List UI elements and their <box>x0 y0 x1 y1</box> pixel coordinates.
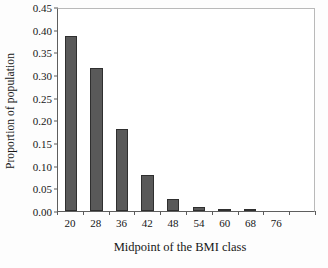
bar <box>167 199 179 211</box>
x-tick-mark <box>57 211 58 215</box>
y-tick-label: 0.45 <box>33 3 52 14</box>
x-tick-label: 60 <box>219 217 230 230</box>
bars-layer <box>58 9 314 211</box>
bar-slot <box>109 9 135 211</box>
plot-area <box>57 8 315 212</box>
y-axis-title-text: Proportion of population <box>4 53 16 169</box>
y-axis-tick-labels: 0.000.050.100.150.200.250.300.350.400.45 <box>18 8 54 212</box>
y-tick-label: 0.35 <box>33 48 52 59</box>
bar-slot <box>237 9 263 211</box>
bar-slot <box>160 9 186 211</box>
x-tick-mark <box>83 211 84 215</box>
x-tick-mark <box>212 211 213 215</box>
bar <box>141 175 153 211</box>
x-tick-mark <box>238 211 239 215</box>
bar <box>90 68 102 211</box>
x-tick-mark <box>315 211 316 215</box>
x-tick-label: 36 <box>116 217 127 230</box>
y-tick-label: 0.15 <box>33 139 52 150</box>
x-axis-tick-marks <box>57 211 315 216</box>
x-tick-mark <box>263 211 264 215</box>
x-axis-tick-labels: 202836424854606876 <box>57 217 315 233</box>
bar-slot <box>58 9 84 211</box>
x-tick-label: 54 <box>193 217 204 230</box>
x-tick-mark <box>289 211 290 215</box>
y-tick-label: 0.00 <box>33 207 52 218</box>
x-axis-title: Midpoint of the BMI class <box>40 240 320 255</box>
y-axis-title: Proportion of population <box>0 0 20 222</box>
x-tick-label: 42 <box>142 217 153 230</box>
y-tick-label: 0.40 <box>33 25 52 36</box>
y-tick-label: 0.25 <box>33 93 52 104</box>
bar-slot <box>84 9 110 211</box>
x-tick-mark <box>160 211 161 215</box>
bar-slot <box>186 9 212 211</box>
bar-slot <box>288 9 314 211</box>
x-tick-mark <box>186 211 187 215</box>
bar-slot <box>263 9 289 211</box>
y-tick-label: 0.30 <box>33 71 52 82</box>
bar <box>116 129 128 211</box>
x-tick-label: 20 <box>64 217 75 230</box>
x-tick-label: 28 <box>90 217 101 230</box>
bar-slot <box>212 9 238 211</box>
y-tick-label: 0.05 <box>33 184 52 195</box>
y-tick-label: 0.10 <box>33 161 52 172</box>
x-tick-label: 68 <box>245 217 256 230</box>
bar-chart-figure: Proportion of population 0.000.050.100.1… <box>0 0 328 268</box>
bar <box>65 36 77 211</box>
y-tick-label: 0.20 <box>33 116 52 127</box>
x-tick-mark <box>134 211 135 215</box>
x-tick-mark <box>109 211 110 215</box>
x-tick-label: 48 <box>168 217 179 230</box>
bar-slot <box>135 9 161 211</box>
x-tick-label: 76 <box>271 217 282 230</box>
